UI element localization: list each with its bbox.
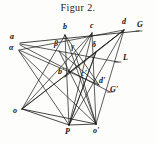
label-P: P xyxy=(65,128,70,136)
label-G-prime: G' xyxy=(110,86,118,94)
label-c: c xyxy=(90,22,94,30)
label-alpha: α xyxy=(9,44,13,52)
figure-line-drawing xyxy=(0,0,156,145)
label-beta: β xyxy=(54,40,58,48)
label-b: b xyxy=(63,23,67,31)
segment-a-to-G xyxy=(20,31,139,43)
label-delta: δ xyxy=(92,41,96,49)
figure-root: Figur 2. xyxy=(0,0,156,145)
label-gamma: γ xyxy=(71,43,74,51)
segment-P-to-d xyxy=(69,30,124,125)
segment-c-to-bprime xyxy=(65,33,92,77)
label-d: d xyxy=(122,18,126,26)
label-o-prime: o' xyxy=(93,127,99,135)
label-a: a xyxy=(10,33,14,41)
label-G: G xyxy=(137,21,143,29)
label-L: L xyxy=(123,54,128,62)
label-c-prime: c' xyxy=(81,70,87,78)
segment-alpha-to-P xyxy=(19,51,69,125)
label-d-prime: d' xyxy=(99,77,105,85)
label-b-prime: b' xyxy=(58,68,64,76)
label-o: o xyxy=(13,107,17,115)
segment-P-to-b xyxy=(65,35,69,125)
